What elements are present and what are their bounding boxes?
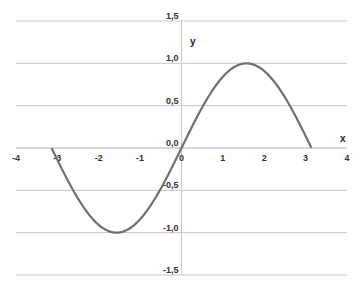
x-tick-label: 0 <box>179 153 184 163</box>
y-tick-label: 1,5 <box>166 11 179 21</box>
x-tick-label: -4 <box>12 153 20 163</box>
sine-chart: 1,51,00,50,0-0,5-1,0-1,5 -4-3-2-101234 y… <box>0 0 361 295</box>
y-tick-label: 1,0 <box>166 53 179 63</box>
x-tick-label: 2 <box>262 153 267 163</box>
x-tick-labels: -4-3-2-101234 <box>12 153 350 163</box>
y-tick-label: 0,5 <box>166 96 179 106</box>
x-tick-label: 1 <box>220 153 225 163</box>
y-tick-labels: 1,51,00,50,0-0,5-1,0-1,5 <box>163 11 179 275</box>
x-tick-label: -2 <box>95 153 103 163</box>
x-axis-label: x <box>340 133 346 144</box>
y-tick-label: -1,5 <box>163 265 179 275</box>
y-tick-label: 0,0 <box>166 138 179 148</box>
y-tick-label: -1,0 <box>163 223 179 233</box>
y-axis-label: y <box>190 36 196 47</box>
x-tick-label: 4 <box>344 153 349 163</box>
x-tick-label: 3 <box>303 153 308 163</box>
x-tick-label: -1 <box>136 153 144 163</box>
